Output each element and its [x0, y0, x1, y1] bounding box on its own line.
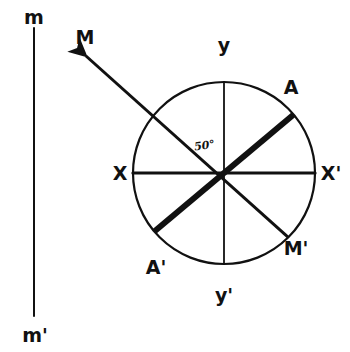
- angle-label-50-degrees: 50°: [193, 138, 215, 154]
- label-M: M: [76, 26, 95, 48]
- vector-diagram: m m' y y' X X' A A': [0, 0, 350, 352]
- label-m: m: [24, 6, 44, 28]
- label-A-prime: A': [146, 256, 167, 278]
- angle-annotation-group: 50°: [193, 138, 215, 154]
- label-m-prime: m': [22, 324, 48, 346]
- reference-line-group: m m': [22, 6, 48, 346]
- label-y-prime: y': [215, 284, 233, 306]
- figure-canvas: m m' y y' X X' A A': [0, 0, 350, 352]
- ray-M-Mprime-group: M M': [76, 26, 309, 259]
- label-x-prime: X': [321, 162, 341, 184]
- label-x: X: [113, 162, 128, 184]
- label-y: y: [218, 34, 231, 56]
- label-A: A: [284, 76, 299, 98]
- label-M-prime: M': [284, 237, 309, 259]
